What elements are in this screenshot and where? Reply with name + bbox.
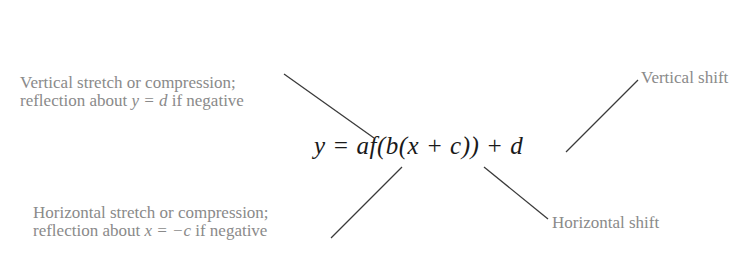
- annotation-a-line2: reflection about y = d if negative: [20, 92, 244, 110]
- annotation-vertical-stretch: Vertical stretch or compression; reflect…: [20, 74, 244, 110]
- annotation-b-line1: Horizontal stretch or compression;: [33, 204, 269, 222]
- annotation-vertical-shift: Vertical shift: [641, 69, 728, 87]
- leader-line-c: [484, 167, 548, 219]
- transformation-formula: y = af(b(x + c)) + d: [314, 132, 523, 160]
- leader-line-d: [566, 80, 638, 152]
- annotation-a-line1: Vertical stretch or compression;: [20, 74, 244, 92]
- annotation-horizontal-stretch: Horizontal stretch or compression; refle…: [33, 204, 269, 240]
- leader-line-b: [331, 167, 402, 238]
- annotation-horizontal-shift: Horizontal shift: [552, 214, 659, 232]
- leader-line-a: [284, 74, 374, 138]
- annotation-b-line2: reflection about x = −c if negative: [33, 222, 269, 240]
